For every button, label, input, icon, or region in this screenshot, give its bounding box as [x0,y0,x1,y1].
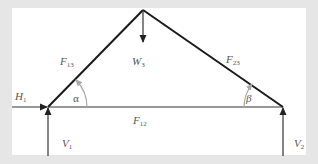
label-alpha: α [73,92,79,104]
label-h1: H1 [14,90,27,104]
label-f23: F23 [225,53,240,67]
label-v2: V2 [294,137,305,151]
label-f13: F13 [59,55,74,69]
member-f23 [143,10,283,107]
truss-diagram: F13 W3 F23 H1 F12 V1 V2 α β [0,0,318,164]
label-w3: W3 [132,55,145,69]
label-beta: β [245,92,252,104]
label-v1: V1 [62,137,73,151]
label-f12: F12 [132,114,147,128]
